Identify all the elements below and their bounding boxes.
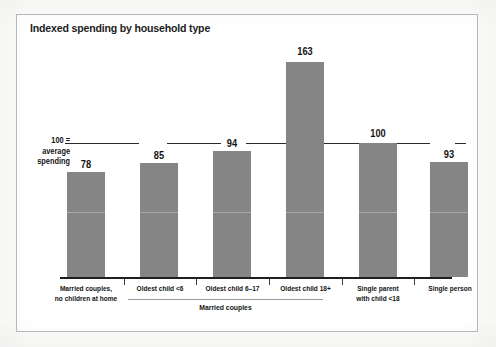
chart-plot-area: 100 = average spending 78 85 94 163 100 …: [0, 0, 496, 347]
x-axis-label-single-parent: Single parent with child <18: [346, 284, 411, 303]
reference-line-label-line2: average: [29, 147, 70, 158]
bar-oldest-child-under-6: [140, 163, 178, 277]
reference-line-label-line3: spending: [29, 157, 70, 168]
bar-value-label: 163: [288, 45, 321, 57]
bar-value-label: 100: [361, 127, 394, 139]
label-line-1: Married couples,: [50, 284, 122, 294]
bar-value-label: 85: [142, 149, 175, 161]
label-line-1: Single person: [418, 284, 483, 294]
bar-oldest-child-6-17: [213, 151, 251, 277]
scan-seam: [67, 212, 105, 213]
label-line-1: Single parent: [346, 284, 411, 294]
reference-line-segment: [167, 143, 221, 144]
x-axis-label-oldest-child-under-6: Oldest child <6: [128, 284, 193, 294]
group-bracket-line: [128, 299, 323, 300]
x-axis-baseline: [60, 277, 452, 279]
axis-tick: [196, 279, 197, 285]
bar-married-no-children: [67, 172, 105, 277]
axis-tick: [342, 279, 343, 285]
bar-value-label: 94: [215, 137, 248, 149]
scan-seam: [286, 212, 324, 213]
group-bracket-label: Married couples: [138, 303, 314, 312]
bar-value-label: 93: [432, 148, 465, 160]
axis-tick: [124, 279, 125, 285]
x-axis-label-oldest-child-6-17: Oldest child 6–17: [200, 284, 266, 294]
label-line-2: with child <18: [346, 294, 411, 304]
x-axis-label-oldest-child-18-plus: Oldest child 18+: [273, 284, 339, 294]
reference-line-segment: [65, 143, 139, 144]
reference-line-label: 100 = average spending: [29, 136, 70, 168]
label-line-1: Oldest child 18+: [273, 284, 339, 294]
scan-seam: [140, 212, 178, 213]
axis-tick: [414, 279, 415, 285]
x-axis-label-married-no-children: Married couples, no children at home: [50, 284, 122, 303]
label-line-1: Oldest child <6: [128, 284, 193, 294]
reference-line-end-dash: [455, 143, 466, 144]
bar-single-parent: [359, 143, 397, 277]
scan-seam: [430, 212, 468, 213]
bar-value-label: 78: [69, 158, 102, 170]
bar-single-person: [430, 162, 468, 277]
scan-seam: [359, 212, 397, 213]
axis-tick: [269, 279, 270, 285]
bar-oldest-child-18-plus: [286, 62, 324, 277]
reference-line-label-line1: 100 =: [29, 136, 70, 147]
label-line-2: no children at home: [50, 294, 122, 304]
page-canvas: Indexed spending by household type 100 =…: [0, 0, 496, 347]
scan-seam: [213, 212, 251, 213]
x-axis-label-single-person: Single person: [418, 284, 483, 294]
label-line-1: Oldest child 6–17: [200, 284, 266, 294]
